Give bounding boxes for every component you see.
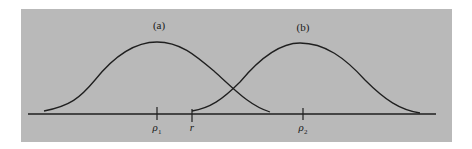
curve-b-label: (b)	[297, 21, 310, 33]
tick-label-rho2: ρ2	[299, 121, 308, 136]
tick-label-r: r	[190, 121, 194, 133]
curve-b	[192, 43, 420, 113]
curve-a-label: (a)	[153, 19, 165, 31]
tick-label-rho1: ρ1	[153, 121, 162, 136]
curve-a	[44, 42, 270, 112]
distribution-plot	[0, 0, 472, 149]
